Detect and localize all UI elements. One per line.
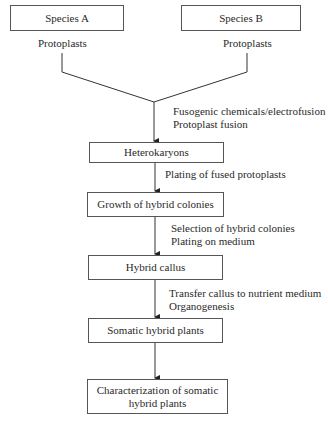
species-b-protoplasts-label: Protoplasts <box>223 37 272 50</box>
edge-label-selection-1: Selection of hybrid colonies <box>171 222 295 235</box>
characterization-label-line1: Characterization of somatic <box>97 384 219 397</box>
species-b-box: Species B <box>181 5 301 31</box>
hybrid-callus-box: Hybrid callus <box>88 255 223 280</box>
hybrid-callus-label: Hybrid callus <box>126 261 186 274</box>
edge-label-fusion-2: Protoplast fusion <box>173 118 248 131</box>
characterization-label-line2: hybrid plants <box>129 397 187 410</box>
species-a-label: Species A <box>45 12 89 25</box>
species-a-box: Species A <box>10 5 124 31</box>
species-a-protoplasts-label: Protoplasts <box>38 37 87 50</box>
heterokaryons-label: Heterokaryons <box>124 146 189 159</box>
growth-label: Growth of hybrid colonies <box>97 198 213 211</box>
somatic-hybrid-box: Somatic hybrid plants <box>88 318 223 343</box>
growth-box: Growth of hybrid colonies <box>87 192 224 217</box>
edge-label-transfer-2: Organogenesis <box>169 300 234 313</box>
heterokaryons-box: Heterokaryons <box>89 142 224 163</box>
species-b-label: Species B <box>219 12 263 25</box>
edge-label-selection-2: Plating on medium <box>171 235 255 248</box>
edge-label-plating: Plating of fused protoplasts <box>165 168 286 181</box>
edge-label-fusion-1: Fusogenic chemicals/electrofusion <box>173 105 325 118</box>
edge-label-transfer-1: Transfer callus to nutrient medium <box>169 287 321 300</box>
characterization-box: Characterization of somatic hybrid plant… <box>87 379 228 414</box>
somatic-hybrid-label: Somatic hybrid plants <box>107 324 204 337</box>
